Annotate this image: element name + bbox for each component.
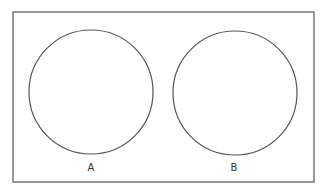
- set-b-circle: [173, 31, 297, 155]
- venn-diagram: [0, 0, 328, 192]
- set-a-label: A: [88, 162, 95, 173]
- set-a-circle: [29, 30, 153, 154]
- universe-frame: [13, 12, 314, 182]
- set-b-label: B: [231, 162, 238, 173]
